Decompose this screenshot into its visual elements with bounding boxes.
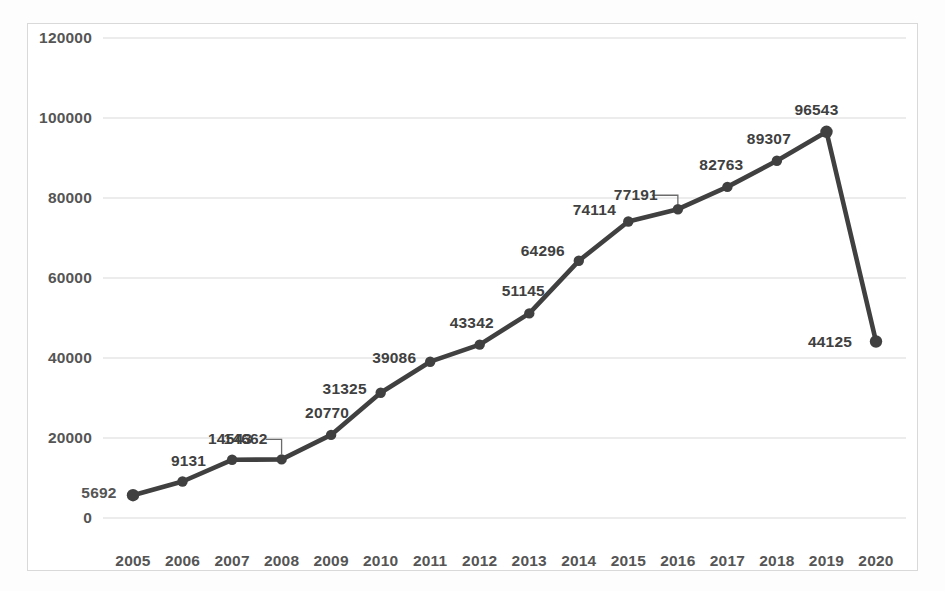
data-point-marker[interactable] — [227, 455, 237, 465]
data-point-label: 31325 — [323, 380, 367, 398]
data-point-label: 51145 — [502, 282, 545, 300]
x-axis-tick-label: 2017 — [710, 552, 745, 570]
data-point-label: 43342 — [450, 314, 494, 332]
data-point-label: 89307 — [747, 130, 791, 148]
x-axis-tick-label: 2008 — [264, 552, 299, 570]
x-axis-tick-label: 2019 — [809, 552, 844, 570]
x-axis-tick-label: 2020 — [858, 552, 893, 570]
x-axis-tick-label: 2012 — [462, 552, 497, 570]
x-axis-tick-label: 2015 — [611, 552, 646, 570]
data-point-label: 64296 — [521, 242, 565, 260]
y-axis-tick-label: 100000 — [0, 109, 92, 127]
y-axis-tick-label: 0 — [0, 509, 92, 527]
x-axis-tick-label: 2016 — [660, 552, 695, 570]
x-axis-tick-label: 2010 — [363, 552, 398, 570]
data-point-label: 77191 — [614, 186, 658, 204]
data-point-marker[interactable] — [722, 182, 732, 192]
x-axis-tick-label: 2007 — [214, 552, 249, 570]
x-axis-tick-label: 2011 — [413, 552, 447, 570]
line-chart: 120000100000800006000040000200000 200520… — [0, 0, 945, 591]
data-point-marker[interactable] — [425, 357, 435, 367]
chart-svg-canvas — [0, 0, 945, 591]
y-axis-tick-label: 80000 — [0, 189, 92, 207]
x-axis-tick-label: 2013 — [512, 552, 547, 570]
data-point-marker[interactable] — [673, 204, 683, 214]
data-point-marker[interactable] — [276, 454, 286, 464]
data-point-marker[interactable] — [326, 430, 336, 440]
y-axis-tick-label: 20000 — [0, 429, 92, 447]
data-point-marker[interactable] — [870, 335, 882, 347]
data-point-label: 96543 — [794, 101, 838, 119]
x-axis-tick-label: 2018 — [759, 552, 794, 570]
y-axis-tick-label: 120000 — [0, 29, 92, 47]
data-point-label: 39086 — [372, 349, 416, 367]
data-point-label: 82763 — [699, 156, 743, 174]
x-axis-tick-label: 2009 — [313, 552, 348, 570]
data-point-marker[interactable] — [574, 256, 584, 266]
x-axis-tick-label: 2006 — [165, 552, 200, 570]
data-point-marker[interactable] — [177, 476, 187, 486]
data-point-marker[interactable] — [623, 216, 633, 226]
y-axis-tick-label: 60000 — [0, 269, 92, 287]
y-axis-tick-label: 40000 — [0, 349, 92, 367]
data-point-marker[interactable] — [127, 489, 139, 501]
data-point-marker[interactable] — [524, 308, 534, 318]
data-point-label: 44125 — [808, 333, 852, 351]
data-point-label: 20770 — [305, 404, 349, 422]
data-point-marker[interactable] — [772, 156, 782, 166]
data-point-marker[interactable] — [376, 388, 386, 398]
data-point-label: 5692 — [81, 484, 116, 502]
data-point-label: 9131 — [171, 452, 206, 470]
x-axis-tick-label: 2005 — [115, 552, 150, 570]
x-axis-tick-label: 2014 — [561, 552, 596, 570]
data-point-marker[interactable] — [475, 339, 485, 349]
data-point-marker[interactable] — [820, 126, 832, 138]
data-point-label: 14662 — [224, 430, 268, 448]
label-leader-line — [266, 439, 282, 454]
data-point-label: 74114 — [573, 201, 616, 219]
